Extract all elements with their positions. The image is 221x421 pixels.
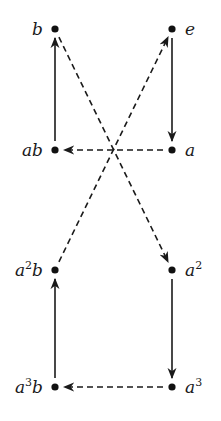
cayley-diagram: beabaa2ba2a3ba3 — [0, 0, 221, 421]
node-a3b — [51, 383, 58, 390]
node-label-e: e — [185, 19, 195, 39]
node-e — [168, 25, 175, 32]
node-label-b: b — [32, 19, 43, 39]
node-label-ab: ab — [22, 140, 43, 160]
node-a3 — [168, 383, 175, 390]
nodes: beabaa2ba2a3ba3 — [15, 19, 202, 397]
node-label-a2b: a2b — [15, 259, 43, 280]
node-label-a3: a3 — [185, 376, 202, 397]
node-a2b — [51, 266, 58, 273]
node-a — [168, 146, 175, 153]
edges — [55, 37, 172, 387]
node-b — [51, 25, 58, 32]
node-label-a: a — [185, 140, 195, 160]
node-a2 — [168, 266, 175, 273]
node-label-a3b: a3b — [15, 376, 43, 397]
node-label-a2: a2 — [185, 259, 202, 280]
node-ab — [51, 146, 58, 153]
